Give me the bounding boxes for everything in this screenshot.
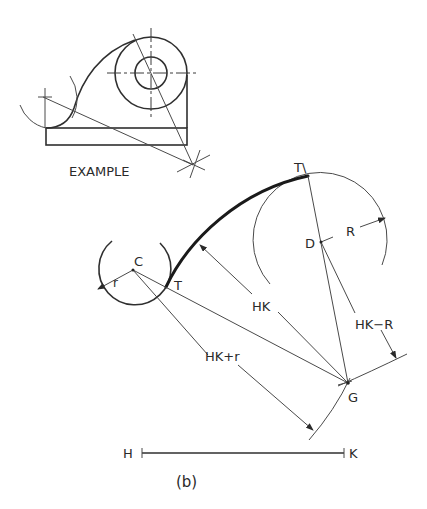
example-intersect-arc-3 (183, 160, 205, 170)
figure-caption-b: (b) (176, 473, 197, 491)
line-hkr-to-arc (238, 365, 313, 430)
point-g-mark (346, 381, 350, 385)
label-g: G (348, 390, 358, 405)
circle-c-arc (99, 241, 171, 305)
line-d-to-hkr (321, 242, 355, 313)
label-r-small: r (113, 276, 118, 290)
label-hk: HK (252, 299, 271, 314)
line-t1-to-g (308, 176, 348, 383)
tangent-arc-t-t1 (166, 176, 308, 287)
line-c-to-arc (133, 270, 208, 355)
label-hk-plus-r: HK+r (205, 349, 240, 364)
label-hk-minus-r: HK−R (355, 317, 393, 332)
line-c-to-g (133, 270, 348, 383)
label-t1: T\ (293, 160, 307, 175)
arc-d (253, 172, 387, 284)
line-hkr-arrow (381, 330, 396, 358)
label-d: D (305, 236, 315, 251)
label-R: R (346, 224, 355, 239)
example-construction-arc-2 (20, 105, 46, 128)
point-d-mark (320, 241, 323, 244)
label-k: K (349, 446, 358, 461)
drawing-canvas: EXAMPLE (0, 0, 427, 509)
example-figure: EXAMPLE (20, 28, 210, 179)
line-hk-upper (200, 245, 252, 294)
figure-b: C r T T\ D R HK HK−R HK+r G H K (b) (98, 160, 407, 491)
example-diagonal-line (43, 97, 193, 165)
arc-through-g-lower (309, 378, 350, 440)
line-hk-lower (278, 312, 348, 383)
label-h: H (123, 446, 133, 461)
radius-R-line (321, 237, 333, 242)
example-caption: EXAMPLE (69, 164, 130, 179)
label-t: T (173, 278, 182, 293)
label-c: C (134, 254, 143, 269)
radius-R-arrow (360, 218, 385, 227)
